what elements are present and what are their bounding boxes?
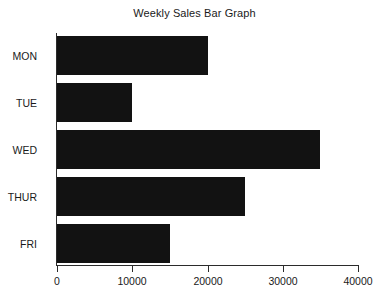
x-tick-30000	[283, 266, 284, 272]
bar-tue	[57, 83, 132, 122]
x-tick-20000	[208, 266, 209, 272]
category-label-thur: THUR	[0, 191, 37, 203]
x-tick-10000	[132, 266, 133, 272]
category-label-tue: TUE	[0, 97, 37, 109]
bar-fill	[57, 36, 208, 75]
category-label-wed: WED	[0, 144, 37, 156]
x-tick-label-10000: 10000	[117, 275, 146, 288]
chart-title: Weekly Sales Bar Graph	[0, 7, 389, 19]
bar-wed	[57, 130, 320, 169]
bar-thur	[57, 177, 245, 216]
bar-chart: Weekly Sales Bar Graph MONTUEWEDTHURFRI …	[0, 0, 389, 305]
category-label-fri: FRI	[0, 238, 37, 250]
bar-mon	[57, 36, 208, 75]
x-tick-0	[57, 266, 58, 272]
x-tick-label-30000: 30000	[268, 275, 297, 288]
x-tick-40000	[358, 266, 359, 272]
x-tick-label-40000: 40000	[343, 275, 372, 288]
x-tick-label-0: 0	[54, 275, 60, 288]
bar-fill	[57, 130, 320, 169]
bar-fill	[57, 83, 132, 122]
bar-fill	[57, 177, 245, 216]
category-label-mon: MON	[0, 50, 37, 62]
bar-fill	[57, 224, 170, 263]
bar-fri	[57, 224, 170, 263]
x-tick-label-20000: 20000	[193, 275, 222, 288]
